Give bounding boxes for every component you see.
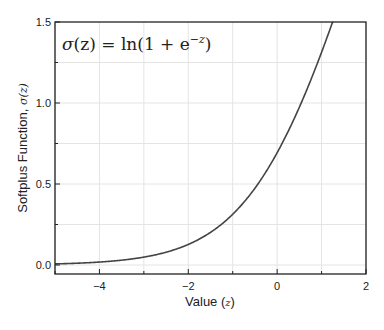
x-tick-label: 0 (274, 280, 280, 292)
x-tick-label: 2 (363, 280, 369, 292)
x-tick-label: −4 (93, 280, 106, 292)
y-tick-label: 1.0 (36, 97, 51, 109)
formula-annotation: σ(z) = ln(1 + e−z) (62, 33, 212, 54)
y-tick-label: 0.0 (36, 259, 51, 271)
y-tick-label: 0.5 (36, 178, 51, 190)
x-tick-label: −2 (182, 280, 195, 292)
y-axis-label: Softplus Function, σ(z) (15, 83, 30, 213)
y-tick-label: 1.5 (36, 16, 51, 28)
softplus-chart: −4−202 0.00.51.01.5 σ(z) = ln(1 + e−z) V… (0, 0, 384, 330)
x-tick-labels: −4−202 (93, 280, 369, 292)
softplus-curve (55, 22, 333, 264)
x-axis-label: Value (z) (185, 294, 235, 309)
y-tick-labels: 0.00.51.01.5 (36, 16, 51, 271)
